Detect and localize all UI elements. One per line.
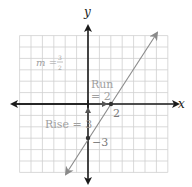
coordinate-plane-figure: x y m = 3 2 Run = 2 Rise = 3 2 −3 xyxy=(0,0,192,187)
y-intercept-point xyxy=(86,136,90,140)
slope-numerator: 3 xyxy=(58,54,62,61)
slope-m-label: m = xyxy=(36,57,57,68)
y-intercept-label: −3 xyxy=(92,136,108,149)
y-axis-label: y xyxy=(83,5,91,19)
rise-label: Rise = 3 xyxy=(45,118,92,131)
slope-denominator: 2 xyxy=(58,64,62,71)
x-axis-label: x xyxy=(178,97,185,111)
graph-svg: x y m = 3 2 Run = 2 Rise = 3 2 −3 xyxy=(0,0,192,187)
x-intercept-label: 2 xyxy=(113,107,120,120)
run-value-label: = 2 xyxy=(91,90,111,103)
